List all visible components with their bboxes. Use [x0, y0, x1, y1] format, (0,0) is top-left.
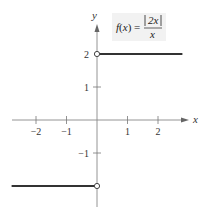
x-tick-label: −1: [61, 126, 72, 137]
svg-text:f(x) =: f(x) =: [116, 21, 140, 34]
svg-text:2x: 2x: [148, 14, 159, 26]
open-point-icon: [94, 183, 99, 188]
axis-ticks: −2−112−112: [31, 49, 161, 159]
y-tick-label: 2: [84, 49, 89, 60]
x-tick-label: 2: [156, 126, 161, 137]
open-point-icon: [94, 51, 99, 56]
x-tick-label: 1: [125, 126, 130, 137]
svg-text:x: x: [149, 28, 155, 40]
y-axis-label: y: [91, 9, 97, 21]
y-tick-label: 1: [84, 82, 89, 93]
x-axis-arrow-icon: [181, 118, 189, 123]
y-tick-label: −1: [78, 148, 89, 159]
x-tick-label: −2: [31, 126, 42, 137]
graph-canvas: f(x) = 2x x x y −2−112−112: [0, 0, 212, 217]
function-plot: f(x) = 2x x x y −2−112−112: [0, 0, 212, 217]
y-axis-arrow-icon: [95, 24, 100, 32]
x-axis-label: x: [192, 113, 198, 125]
